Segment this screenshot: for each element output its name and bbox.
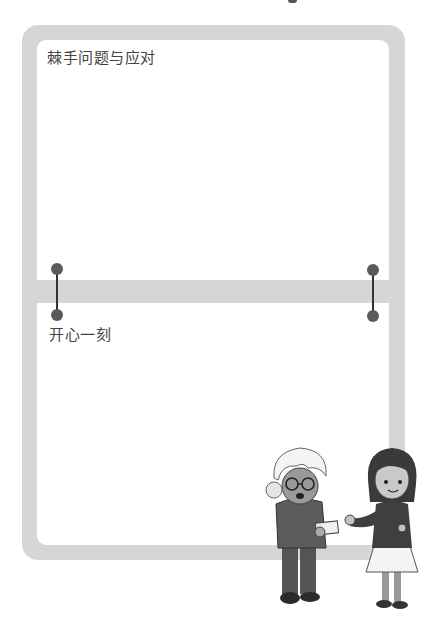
section-panel-tricky-questions — [37, 40, 389, 280]
characters-illustration — [262, 440, 431, 619]
binder-ring-left-bottom-dot — [51, 309, 63, 321]
cropped-header-fragment — [288, 0, 297, 3]
binder-ring-right-top-dot — [367, 264, 379, 276]
elderly-woman-figure — [266, 448, 339, 604]
girl-figure — [345, 448, 418, 609]
binder-ring-left-top-dot — [51, 263, 63, 275]
section-title-happy-moment: 开心一刻 — [49, 326, 111, 344]
section-title-tricky-questions: 棘手问题与应对 — [47, 49, 156, 67]
binder-ring-right-bottom-dot — [367, 310, 379, 322]
